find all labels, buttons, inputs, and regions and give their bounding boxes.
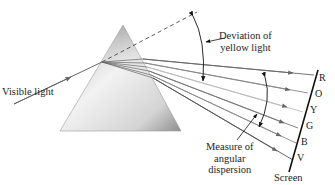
dispersion-label: Measure of angular dispersion bbox=[206, 141, 254, 176]
spectrum-label-yellow: Y bbox=[310, 105, 317, 115]
spectrum-label-violet: V bbox=[297, 153, 304, 163]
spectrum-label-orange: O bbox=[315, 89, 322, 99]
deviation-label-line2: yellow light bbox=[219, 42, 272, 54]
screen-label: Screen bbox=[274, 172, 303, 184]
spectrum-label-red: R bbox=[319, 73, 326, 83]
deviation-label: Deviation of yellow light bbox=[219, 30, 272, 53]
spectrum-label-green: G bbox=[306, 121, 313, 131]
dispersion-pointer bbox=[237, 114, 257, 140]
incident-light-label: Visible light bbox=[2, 86, 54, 98]
spectrum-label-blue: B bbox=[301, 137, 308, 147]
dispersion-label-line1: Measure of bbox=[206, 141, 254, 153]
deviation-label-line1: Deviation of bbox=[219, 30, 272, 42]
prism bbox=[60, 25, 181, 131]
deviation-arc bbox=[193, 16, 204, 81]
dispersion-label-line2: angular bbox=[206, 153, 254, 165]
dispersion-label-line3: dispersion bbox=[206, 164, 254, 176]
